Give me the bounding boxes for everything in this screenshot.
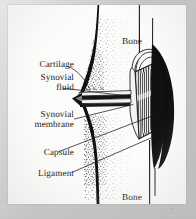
label-synovial-fluid: Synovialfluid [6,72,74,92]
label-synovial-fluid-line1: Synovial [41,72,74,82]
label-synovial-fluid-line2: fluid [56,82,74,92]
label-bone-lower: Bone [108,192,156,202]
label-synovial-membrane-line2: membrane [34,119,74,129]
label-ligament: Ligament [2,168,74,178]
label-cartilage: Cartilage [6,59,74,69]
label-capsule: Capsule [6,147,74,157]
scan-speck [58,210,59,211]
leader-line-ligament [73,134,160,172]
synovial-joint-figure: Cartilage Synovialfluid Synovialmembrane… [0,0,196,219]
label-synovial-membrane-line1: Synovial [41,109,74,119]
label-bone-upper: Bone [108,36,156,46]
label-synovial-membrane: Synovialmembrane [2,109,74,129]
leader-line-synovial-membrane [75,105,134,120]
